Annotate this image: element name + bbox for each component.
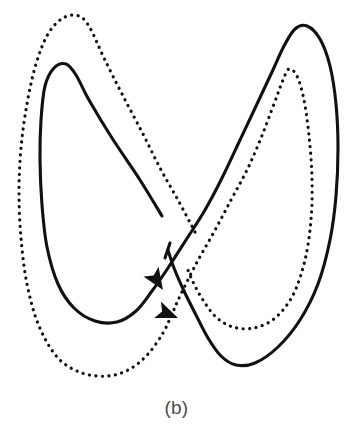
figure-caption: (b) <box>0 396 353 420</box>
phase-portrait-canvas <box>0 0 353 437</box>
figure-background <box>0 0 353 437</box>
figure-container: (b) <box>0 0 353 437</box>
